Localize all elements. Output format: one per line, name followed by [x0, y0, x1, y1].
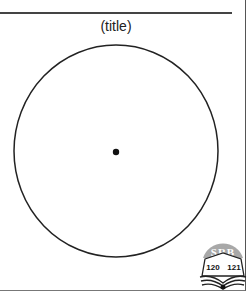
circle-diagram: SRB 120 121 [0, 0, 249, 294]
logo-left-page: 120 [206, 263, 220, 272]
center-dot [113, 149, 119, 155]
logo-right-page: 121 [227, 263, 241, 272]
srb-logo: SRB 120 121 [200, 243, 246, 289]
